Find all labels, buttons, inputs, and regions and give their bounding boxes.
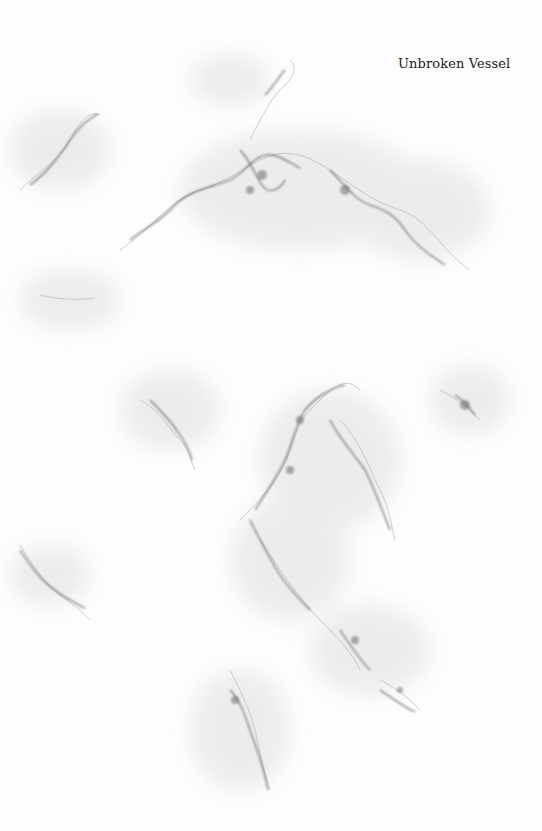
- marble-texture-canvas: [0, 0, 542, 831]
- artwork-title: Unbroken Vessel: [398, 56, 510, 71]
- marble-veins-graphic: [0, 0, 542, 831]
